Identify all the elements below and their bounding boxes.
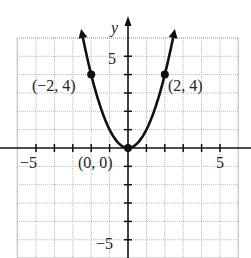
x-tick-label-5: 5 [216, 154, 224, 171]
y-tick-label-neg5: −5 [96, 235, 113, 252]
y-tick-label-5: 5 [108, 50, 116, 67]
curve-arrow-right-icon [169, 29, 178, 39]
point-label-origin: (0, 0) [78, 154, 113, 172]
curve-arrow-left-icon [79, 29, 88, 39]
point-label-2-4: (2, 4) [168, 77, 203, 95]
y-axis-arrow-icon [125, 16, 132, 26]
x-tick-label-neg5: −5 [20, 154, 37, 171]
y-axis-label: y [109, 19, 119, 37]
parabola-graph: y 5 −5 −5 5 (−2, 4) (0, 0) (2, 4) [0, 0, 251, 258]
point-neg2-4 [87, 70, 95, 78]
point-label-neg2-4: (−2, 4) [32, 77, 76, 95]
point-origin [124, 144, 132, 152]
